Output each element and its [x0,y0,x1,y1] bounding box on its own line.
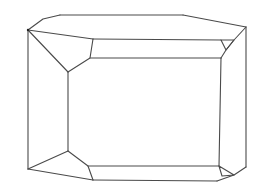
top-bevel-upper-line [93,39,221,40]
crystal-diagram [0,0,262,190]
top-right-facet-line [221,27,246,58]
outer-top-right-edge-line [183,15,246,27]
outer-top-left-chamfer-line [28,15,60,30]
top-left-facet-upper-line [28,30,93,39]
vertex-dot [27,29,29,31]
inner-right-edge-line [219,58,221,166]
top-left-facet-lower-line [28,30,68,72]
top-left-bevel-line [68,39,93,72]
crystal-drawing [0,0,262,190]
bottom-right-triangle-line [219,166,234,176]
crystal-edges [27,15,246,181]
top-right-triangle-line [221,40,234,50]
bottom-left-facet-upper-line [28,151,68,169]
bottom-bevel-lower-line [93,180,217,181]
bottom-left-facet-lower-line [28,169,93,180]
